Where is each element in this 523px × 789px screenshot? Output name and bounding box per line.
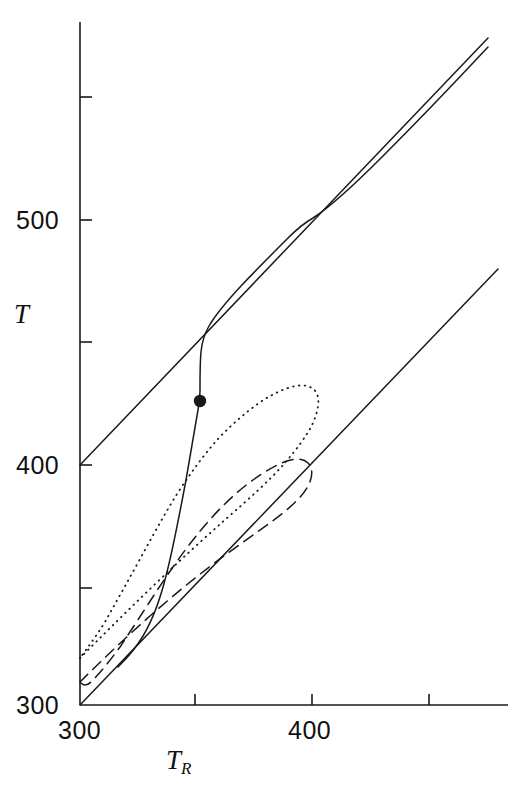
y-tick-label-300: 300 bbox=[16, 691, 59, 720]
operating-point-marker bbox=[194, 395, 206, 407]
x-axis-title-subscript: R bbox=[181, 759, 191, 778]
y-tick-label-400: 400 bbox=[16, 451, 59, 480]
series-dashed-hysteresis-loop bbox=[80, 459, 312, 685]
x-axis-title-main: T bbox=[166, 745, 181, 775]
x-tick-label-300: 300 bbox=[58, 716, 101, 745]
x-axis-title: TR bbox=[166, 745, 191, 776]
y-tick-label-500: 500 bbox=[16, 206, 59, 235]
axis-lines bbox=[80, 22, 508, 705]
data-curves bbox=[80, 38, 498, 705]
series-dotted-hysteresis-loop bbox=[80, 385, 318, 658]
y-axis-title: T bbox=[14, 299, 29, 330]
x-axis-ticks bbox=[195, 694, 429, 705]
series-upper-energy-balance-line bbox=[80, 38, 488, 465]
y-axis-ticks bbox=[80, 97, 92, 588]
plot-canvas bbox=[0, 0, 523, 789]
series-steady-state-s-curve bbox=[118, 47, 488, 667]
series-lower-energy-balance-line bbox=[80, 269, 498, 705]
x-tick-label-400: 400 bbox=[288, 716, 331, 745]
chart-figure: 500 400 300 300 400 T TR bbox=[0, 0, 523, 789]
